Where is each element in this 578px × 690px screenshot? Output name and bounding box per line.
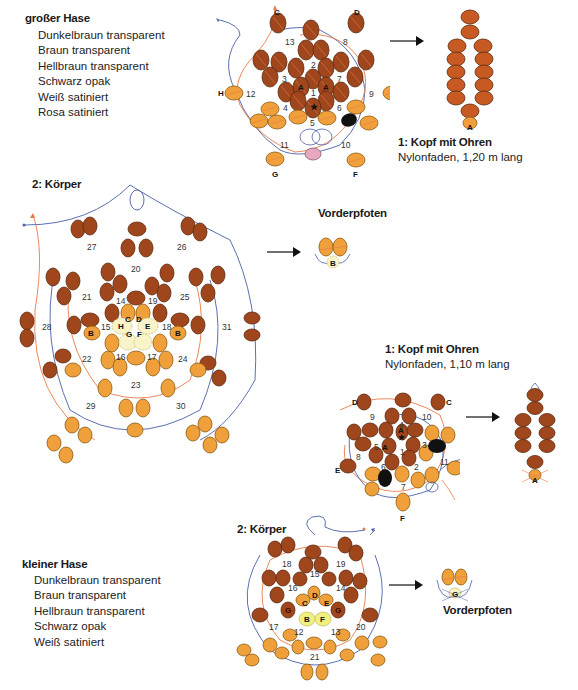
- svg-text:14: 14: [116, 296, 126, 306]
- svg-text:28: 28: [42, 322, 52, 332]
- svg-text:★: ★: [398, 433, 406, 442]
- svg-text:1: 1: [400, 447, 405, 457]
- svg-text:7: 7: [337, 74, 342, 84]
- svg-text:H: H: [118, 322, 124, 331]
- small-step1-thread: Nylonfaden, 1,10 m lang: [385, 358, 510, 370]
- svg-text:5: 5: [310, 118, 315, 128]
- material-item: Hellbraun transparent: [34, 604, 161, 619]
- svg-text:8: 8: [343, 37, 348, 47]
- svg-text:5: 5: [374, 442, 379, 452]
- ear-label: A: [467, 123, 473, 130]
- svg-text:D: D: [136, 315, 142, 324]
- svg-text:10: 10: [341, 140, 351, 150]
- material-item: Hellbraun transparent: [38, 59, 165, 74]
- large-paw-diagram: B: [310, 232, 355, 277]
- svg-text:D: D: [312, 591, 318, 600]
- svg-text:19: 19: [148, 296, 158, 306]
- small-rabbit-title: kleiner Hase: [22, 558, 87, 570]
- svg-text:15: 15: [101, 322, 111, 332]
- svg-text:B: B: [175, 329, 181, 338]
- small-step1-title: 1: Kopf mit Ohren: [385, 343, 479, 355]
- svg-text:21: 21: [310, 652, 320, 662]
- large-rabbit-materials-list: Dunkelbraun transparent Braun transparen…: [38, 28, 165, 120]
- arrow-right-icon: [390, 35, 425, 47]
- svg-text:4: 4: [283, 103, 288, 113]
- svg-text:1: 1: [311, 88, 316, 98]
- svg-text:6: 6: [381, 462, 386, 472]
- svg-text:26: 26: [177, 242, 187, 252]
- svg-text:F: F: [353, 170, 358, 179]
- svg-text:D: D: [354, 8, 360, 17]
- svg-text:E: E: [145, 322, 151, 331]
- svg-text:C: C: [274, 8, 280, 17]
- svg-text:E: E: [335, 466, 341, 475]
- material-item: Schwarz opak: [38, 74, 165, 89]
- material-item: Braun transparent: [34, 588, 161, 603]
- svg-text:A: A: [382, 443, 388, 452]
- paw-label: B: [330, 259, 336, 268]
- svg-text:C: C: [302, 599, 308, 608]
- svg-text:31: 31: [222, 322, 232, 332]
- svg-text:B: B: [304, 615, 310, 624]
- svg-text:G: G: [285, 606, 291, 615]
- svg-text:29: 29: [86, 401, 96, 411]
- material-item: Braun transparent: [38, 43, 165, 58]
- small-rabbit-materials-list: Dunkelbraun transparent Braun transparen…: [34, 573, 161, 650]
- svg-text:30: 30: [176, 401, 186, 411]
- svg-text:F: F: [137, 330, 142, 339]
- svg-text:11: 11: [440, 457, 449, 467]
- svg-text:F: F: [400, 514, 405, 523]
- svg-text:G: G: [126, 330, 132, 339]
- large-body-diagram: 27 26 20 21 14 19 25 28 15 18 31 22 16 1…: [0, 180, 265, 480]
- svg-text:18: 18: [282, 559, 292, 569]
- ear-label: A: [532, 476, 538, 485]
- svg-text:F: F: [320, 615, 325, 624]
- large-paws-title: Vorderpfoten: [318, 207, 387, 219]
- svg-text:27: 27: [87, 242, 97, 252]
- svg-text:13: 13: [331, 627, 341, 637]
- svg-text:25: 25: [180, 292, 190, 302]
- svg-text:G: G: [272, 170, 278, 179]
- large-head-diagram: 13 8 2 3 7 1 12 9 4 6 5 11 10 A A ★ C D …: [200, 0, 390, 180]
- svg-text:23: 23: [131, 380, 141, 390]
- svg-text:E: E: [324, 599, 330, 608]
- material-item: Schwarz opak: [34, 619, 161, 634]
- small-ear-diagram: A: [500, 375, 570, 490]
- svg-text:C: C: [446, 398, 452, 407]
- paw-label: G: [452, 590, 458, 599]
- svg-text:16: 16: [116, 352, 126, 362]
- large-ear-diagram: A: [430, 5, 510, 130]
- svg-text:18: 18: [162, 322, 172, 332]
- svg-text:12: 12: [294, 627, 304, 637]
- svg-text:★: ★: [310, 102, 319, 112]
- svg-text:20: 20: [356, 622, 366, 632]
- svg-text:19: 19: [336, 559, 346, 569]
- material-item: Rosa satiniert: [38, 105, 165, 120]
- arrow-right-icon: [389, 579, 424, 591]
- svg-text:2: 2: [414, 462, 419, 472]
- svg-text:G: G: [335, 606, 341, 615]
- svg-text:21: 21: [82, 292, 92, 302]
- svg-text:17: 17: [269, 622, 279, 632]
- svg-text:A: A: [323, 83, 329, 92]
- material-item: Weiß satiniert: [38, 90, 165, 105]
- large-rabbit-title: großer Hase: [25, 12, 90, 24]
- head-number: 13: [285, 37, 295, 47]
- material-item: Weiß satiniert: [34, 635, 161, 650]
- small-body-diagram: 18 19 15 16 14 17 12 13 20 21 D C E B F …: [230, 515, 400, 685]
- svg-text:9: 9: [370, 412, 375, 422]
- large-step1-thread: Nylonfaden, 1,20 m lang: [398, 151, 523, 163]
- svg-text:14: 14: [336, 583, 346, 593]
- svg-text:12: 12: [246, 89, 256, 99]
- svg-text:20: 20: [131, 264, 141, 274]
- svg-text:24: 24: [178, 354, 188, 364]
- svg-text:16: 16: [288, 583, 298, 593]
- svg-text:17: 17: [147, 352, 157, 362]
- svg-text:10: 10: [422, 412, 432, 422]
- svg-text:6: 6: [337, 103, 342, 113]
- arrow-right-icon: [466, 411, 501, 423]
- svg-text:D: D: [352, 398, 358, 407]
- svg-text:8: 8: [356, 452, 361, 462]
- svg-text:22: 22: [82, 354, 92, 364]
- large-step1-title: 1: Kopf mit Ohren: [398, 136, 492, 148]
